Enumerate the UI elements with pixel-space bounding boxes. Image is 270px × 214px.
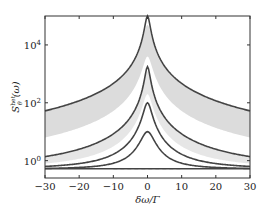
y-tick-label: 102 (24, 97, 41, 109)
y-tick-label: 104 (24, 39, 42, 51)
x-tick-label: 0 (144, 181, 150, 192)
x-tick-label: −20 (69, 181, 90, 192)
x-tick-label: 10 (175, 181, 188, 192)
shaded-bands (45, 25, 250, 164)
x-tick-label: 20 (209, 181, 222, 192)
svg-text:Shetθ(ω): Shetθ(ω) (9, 81, 23, 112)
x-axis-label: δω/Γ (135, 194, 161, 205)
x-tick-label: −30 (34, 181, 55, 192)
x-tick-label: 30 (244, 181, 257, 192)
y-axis-label: Shetθ(ω) (9, 81, 23, 112)
y-tick-label: 100 (24, 155, 41, 167)
x-tick-label: −10 (103, 181, 124, 192)
chart: −30−20−100102030 100102104 δω/Γ Shetθ(ω) (0, 0, 270, 214)
